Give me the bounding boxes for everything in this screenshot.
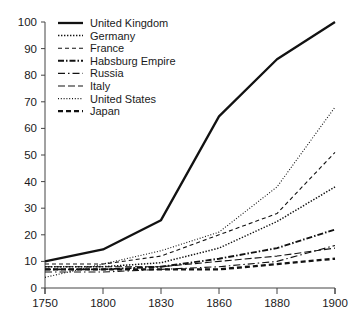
chart-legend: United KingdomGermanyFranceHabsburg Empi… [58, 17, 176, 117]
y-axis-tick-label: 80 [24, 69, 37, 81]
series-line-habsburg-empire [45, 229, 335, 269]
legend-label-russia: Russia [90, 67, 125, 79]
y-axis-tick-label: 50 [24, 149, 37, 161]
y-axis: 0102030405060708090100 [18, 16, 45, 294]
legend-label-italy: Italy [90, 80, 111, 92]
legend-label-japan: Japan [90, 105, 120, 117]
x-axis-tick-label: 1860 [206, 297, 232, 309]
legend-label-united-kingdom: United Kingdom [90, 17, 168, 29]
industrialization-line-chart: 0102030405060708090100 17501800183018601… [0, 0, 363, 329]
y-axis-tick-label: 60 [24, 122, 37, 134]
y-axis-tick-label: 70 [24, 96, 37, 108]
y-axis-tick-label: 0 [31, 282, 37, 294]
x-axis-tick-label: 1880 [264, 297, 290, 309]
y-axis-tick-label: 20 [24, 229, 37, 241]
series-line-united-kingdom [45, 22, 335, 261]
legend-label-habsburg-empire: Habsburg Empire [90, 55, 176, 67]
y-axis-tick-label: 30 [24, 202, 37, 214]
series-line-russia [45, 245, 335, 272]
legend-label-france: France [90, 42, 124, 54]
y-axis-tick-label: 90 [24, 43, 37, 55]
x-axis-tick-label: 1800 [90, 297, 116, 309]
x-axis: 175018001830186018801900 [32, 288, 348, 309]
legend-label-germany: Germany [90, 30, 136, 42]
series-lines [45, 22, 335, 277]
y-axis-tick-label: 100 [18, 16, 37, 28]
x-axis-tick-label: 1750 [32, 297, 58, 309]
legend-label-united-states: United States [90, 93, 157, 105]
x-axis-tick-label: 1830 [148, 297, 174, 309]
y-axis-tick-label: 40 [24, 176, 37, 188]
y-axis-tick-label: 10 [24, 255, 37, 267]
chart-svg: 0102030405060708090100 17501800183018601… [0, 0, 363, 329]
x-axis-tick-label: 1900 [322, 297, 348, 309]
